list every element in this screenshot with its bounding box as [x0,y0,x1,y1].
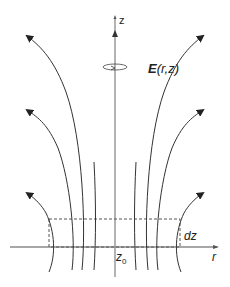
field-diagram: z E(r,z) r dz z0 [0,0,230,287]
z0-subscript: 0 [122,257,127,266]
z0-label: z0 [115,250,127,266]
field-line-inner-right [135,162,137,270]
z0-main: z [115,250,122,264]
field-line-inner-left [94,162,96,270]
field-args: (r,z) [157,61,179,76]
field-line-outer-left-low [27,193,54,272]
z-axis-label: z [119,14,125,26]
dz-label: dz [184,229,197,243]
field-line-mid-left-high [27,36,84,270]
field-line-mid-left-low [27,110,73,270]
field-symbol: E [148,61,157,76]
r-axis-label: r [212,250,217,264]
z-axis [112,15,118,277]
